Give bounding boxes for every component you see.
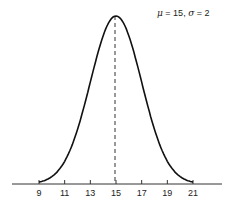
x-tick-label: 19	[162, 188, 172, 198]
x-tick-label: 17	[137, 188, 147, 198]
mu-value: = 15,	[163, 8, 188, 18]
x-tick-label: 9	[36, 188, 41, 198]
density-curve	[39, 16, 193, 182]
chart-container: 9111315171921 μ = 15, σ = 2	[0, 0, 233, 203]
x-tick-label: 15	[111, 188, 121, 198]
normal-curve-plot	[0, 0, 233, 203]
x-tick-label: 11	[60, 188, 69, 198]
parameter-annotation: μ = 15, σ = 2	[157, 8, 210, 18]
x-tick-label: 21	[188, 188, 198, 198]
x-axis-ticks	[39, 180, 193, 184]
x-tick-label: 13	[85, 188, 95, 198]
sigma-value: = 2	[194, 8, 209, 18]
